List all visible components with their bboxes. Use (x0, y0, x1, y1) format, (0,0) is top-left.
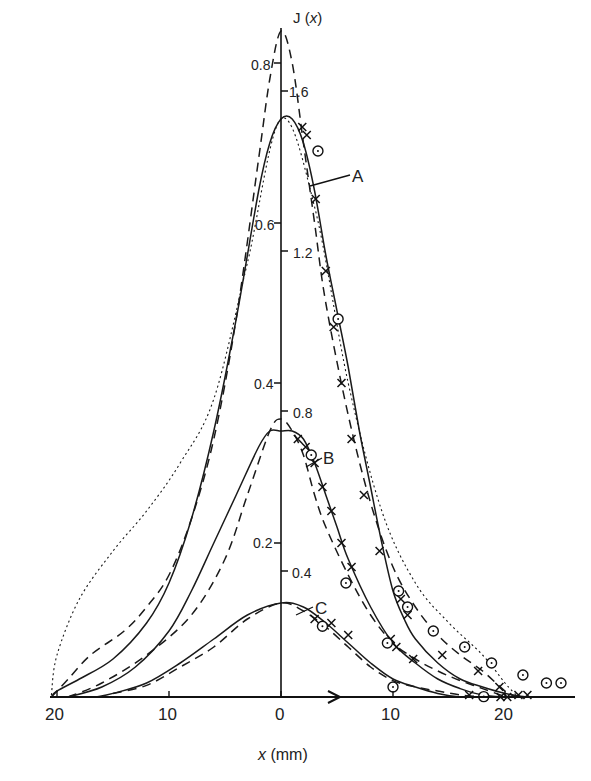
x-title-var: x (258, 746, 266, 763)
y-title-suffix: ) (317, 9, 322, 26)
curve-label-a: A (352, 168, 363, 185)
x-tick-label: 0 (275, 706, 284, 723)
circle-marker-dot (386, 642, 388, 644)
circle-marker-dot (464, 646, 466, 648)
curve-label-b: B (323, 450, 334, 467)
y-left-tick-label: 0.6 (255, 218, 274, 232)
circle-marker-dot (398, 590, 400, 592)
axes (50, 28, 575, 703)
cross-marker (344, 631, 352, 639)
cross-marker (337, 379, 345, 387)
x-tick-label: 10 (381, 706, 400, 723)
circle-marker-dot (317, 150, 319, 152)
circle-marker-dot (392, 686, 394, 688)
cross-marker (392, 643, 400, 651)
x-title-unit: (mm) (266, 746, 308, 763)
circle-marker-dot (432, 630, 434, 632)
cross-marker (327, 619, 335, 627)
cross-marker (303, 131, 311, 139)
cross-marker (495, 683, 503, 691)
y-axis-title: J (x) (293, 10, 322, 25)
y-left-tick-label: 0.8 (251, 58, 270, 72)
cross-marker (348, 563, 356, 571)
cross-marker (327, 507, 335, 515)
cross-marker (376, 547, 384, 555)
y-left-tick-label: 0.4 (254, 377, 273, 391)
y-right-tick-label: 0.8 (293, 406, 312, 420)
curve-A-dotted (51, 118, 516, 695)
circle-marker-dot (310, 454, 312, 456)
circle-marker-dot (345, 582, 347, 584)
circle-marker-dot (560, 682, 562, 684)
line-chart (0, 0, 591, 781)
annotation-leader (310, 175, 350, 186)
curve-C-dashed (113, 603, 483, 697)
y-title-prefix: J ( (293, 9, 310, 26)
circle-marker-dot (321, 625, 323, 627)
curve-A-dashed (51, 31, 516, 697)
circle-marker-dot (491, 662, 493, 664)
x-tick-label: 20 (494, 706, 513, 723)
circle-marker-dot (522, 674, 524, 676)
y-left-tick-label: 0.2 (253, 536, 272, 550)
x-axis-title: x (mm) (258, 747, 308, 763)
curve-B-dashed (68, 419, 505, 697)
curve-label-c: C (315, 600, 327, 617)
y-right-tick-label: 1.6 (289, 85, 308, 99)
y-right-tick-label: 1.2 (293, 246, 312, 260)
y-right-tick-label: 0.4 (292, 566, 311, 580)
circle-marker-dot (407, 606, 409, 608)
x-tick-label: 20 (45, 706, 64, 723)
data-markers (294, 123, 566, 702)
cross-marker (438, 651, 446, 659)
circle-marker-dot (337, 318, 339, 320)
circle-marker-dot (545, 682, 547, 684)
cross-marker (360, 491, 368, 499)
x-tick-label: 10 (158, 706, 177, 723)
